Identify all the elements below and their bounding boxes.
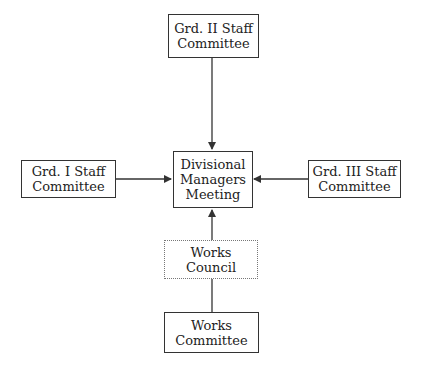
node-grd3-staff-committee: Grd. III Staff Committee — [308, 160, 401, 198]
node-grd2-staff-committee: Grd. II Staff Committee — [168, 14, 259, 58]
node-label-line: Committee — [175, 333, 247, 348]
node-works-council: Works Council — [164, 240, 258, 279]
node-label-line: Works — [190, 245, 231, 260]
node-label-line: Divisional — [180, 157, 245, 172]
node-label-line: Council — [186, 260, 236, 275]
node-label-line: Managers — [180, 172, 246, 187]
node-label-line: Grd. III Staff — [313, 164, 397, 179]
node-label-line: Committee — [318, 179, 390, 194]
node-label-line: Grd. II Staff — [174, 21, 253, 36]
node-label-line: Works — [191, 318, 232, 333]
node-divisional-managers-meeting: Divisional Managers Meeting — [173, 151, 253, 208]
node-grd1-staff-committee: Grd. I Staff Committee — [21, 160, 116, 198]
node-label-line: Committee — [177, 36, 249, 51]
node-label-line: Committee — [32, 179, 104, 194]
node-label-line: Meeting — [186, 187, 241, 202]
node-label-line: Grd. I Staff — [32, 164, 106, 179]
node-works-committee: Works Committee — [164, 312, 259, 353]
